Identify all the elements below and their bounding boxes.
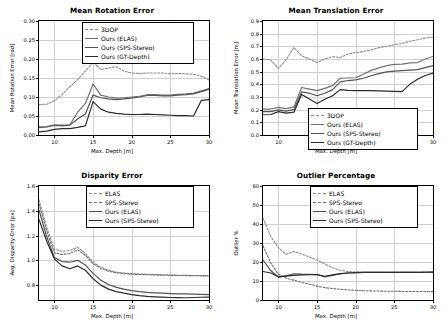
y-axis-tick-label: 0.4 xyxy=(251,81,259,87)
y-axis-tick-label: 0.20 xyxy=(23,56,35,62)
x-axis-tick-label: 30 xyxy=(430,304,437,310)
chart-panel-mean-translation-error: Mean Translation Error0.00.10.20.30.40.5… xyxy=(224,0,448,166)
legend-item[interactable]: Ours (ELAS) xyxy=(85,34,190,43)
x-axis-tick-mark xyxy=(170,136,171,138)
legend-item[interactable]: 3DOP xyxy=(85,25,190,34)
legend-item[interactable]: Ours (SPS-Stereo) xyxy=(311,129,414,138)
legend-label: Ours (GT-Depth) xyxy=(101,52,150,61)
legend-swatch-line-icon xyxy=(311,115,324,116)
legend-item[interactable]: ELAS xyxy=(89,189,190,198)
series-line-ours-elas xyxy=(263,260,433,277)
y-axis-tick-label: 0.25 xyxy=(23,37,35,43)
x-axis-tick-label: 30 xyxy=(430,139,437,145)
chart-panel-mean-rotation-error: Mean Rotation Error0.000.050.100.150.200… xyxy=(0,0,224,166)
x-axis-tick-label: 10 xyxy=(275,139,282,145)
y-axis-tick-mark xyxy=(260,59,262,60)
chart-panel-outlier-percentage: Outlier Percentage0102030405060101520253… xyxy=(224,165,448,331)
y-axis-tick-mark xyxy=(36,40,38,41)
x-axis-tick-mark xyxy=(317,301,318,303)
y-axis-tick-mark xyxy=(260,186,262,187)
legend-item[interactable]: SPS-Stereo xyxy=(89,198,190,207)
legend-swatch-line-icon xyxy=(313,220,326,221)
legend-label: Ours (ELAS) xyxy=(327,120,363,129)
legend-label: SPS-Stereo xyxy=(105,198,138,207)
y-axis-tick-mark xyxy=(260,262,262,263)
y-axis-tick-mark xyxy=(260,110,262,111)
y-axis-tick-mark xyxy=(36,260,38,261)
legend-item[interactable]: Ours (SPS-Stereo) xyxy=(313,216,414,225)
chart-title-outlier-percentage: Outlier Percentage xyxy=(224,171,448,180)
y-axis-tick-label: 0.2 xyxy=(251,107,259,113)
y-axis-tick-mark xyxy=(260,34,262,35)
y-axis-label-mean-rotation-error: Mean Rotation Error [rad] xyxy=(9,44,15,113)
legend-item[interactable]: 3DOP xyxy=(311,111,414,120)
x-axis-tick-label: 25 xyxy=(167,139,174,145)
y-axis-tick-label: 0.5 xyxy=(251,69,259,75)
legend-swatch-line-icon xyxy=(313,193,326,194)
chart-title-disparity-error: Disparity Error xyxy=(0,171,224,180)
series-line-ours-elas xyxy=(263,56,433,109)
series-line-ours-elas xyxy=(39,84,209,127)
chart-panel-disparity-error: Disparity Error0.81.01.21.41.61015202530… xyxy=(0,165,224,331)
y-axis-tick-mark xyxy=(36,236,38,237)
legend-swatch-line-icon xyxy=(85,47,98,48)
y-axis-tick-mark xyxy=(260,21,262,22)
legend-swatch-line-icon xyxy=(89,211,102,212)
legend-item[interactable]: Ours (GT-Depth) xyxy=(311,138,414,147)
legend-item[interactable]: Ours (ELAS) xyxy=(313,207,414,216)
y-axis-tick-label: 0.1 xyxy=(251,119,259,125)
legend-swatch-line-icon xyxy=(89,220,102,221)
legend-swatch-line-icon xyxy=(85,56,98,57)
series-line-ours-gt-depth xyxy=(39,100,209,132)
legend-item[interactable]: Ours (GT-Depth) xyxy=(85,52,190,61)
legend-label: Ours (SPS-Stereo) xyxy=(101,43,155,52)
y-axis-tick-mark xyxy=(260,84,262,85)
x-axis-tick-mark xyxy=(278,301,279,303)
y-axis-tick-label: 0.15 xyxy=(23,75,35,81)
x-axis-tick-mark xyxy=(356,301,357,303)
series-line-ours-sps-stereo xyxy=(39,89,209,127)
legend-label: ELAS xyxy=(105,189,120,198)
x-axis-tick-label: 10 xyxy=(51,139,58,145)
x-axis-label-outlier-percentage: Max. Depth [m] xyxy=(224,313,448,319)
y-axis-tick-label: 0.3 xyxy=(251,94,259,100)
y-axis-tick-label: 0.8 xyxy=(251,31,259,37)
y-axis-tick-label: 50 xyxy=(252,202,259,208)
legend-swatch-line-icon xyxy=(313,211,326,212)
x-axis-tick-label: 25 xyxy=(167,304,174,310)
y-axis-tick-label: 20 xyxy=(252,259,259,265)
legend-item[interactable]: Ours (SPS-Stereo) xyxy=(85,43,190,52)
series-line-3dop xyxy=(263,37,433,68)
y-axis-label-outlier-percentage: Outlier % xyxy=(233,230,239,255)
y-axis-tick-mark xyxy=(36,59,38,60)
legend-item[interactable]: Ours (ELAS) xyxy=(311,120,414,129)
x-axis-tick-label: 10 xyxy=(51,304,58,310)
y-axis-tick-mark xyxy=(36,78,38,79)
legend-label: Ours (SPS-Stereo) xyxy=(329,216,383,225)
x-axis-tick-mark xyxy=(433,136,434,138)
legend-swatch-line-icon xyxy=(311,133,324,134)
y-axis-tick-mark xyxy=(260,122,262,123)
legend-swatch-line-icon xyxy=(313,202,326,203)
y-axis-tick-label: 1.2 xyxy=(27,233,35,239)
chart-title-mean-translation-error: Mean Translation Error xyxy=(224,6,448,15)
y-axis-tick-mark xyxy=(260,300,262,301)
legend-item[interactable]: ELAS xyxy=(313,189,414,198)
legend-item[interactable]: Ours (ELAS) xyxy=(89,207,190,216)
x-axis-tick-label: 25 xyxy=(391,304,398,310)
legend-label: Ours (GT-Depth) xyxy=(327,138,376,147)
legend-swatch-line-icon xyxy=(311,124,324,125)
legend-item[interactable]: SPS-Stereo xyxy=(313,198,414,207)
x-axis-tick-mark xyxy=(132,136,133,138)
x-axis-tick-mark xyxy=(394,301,395,303)
y-axis-tick-mark xyxy=(36,21,38,22)
legend-label: Ours (ELAS) xyxy=(105,207,141,216)
y-axis-tick-mark xyxy=(36,135,38,136)
x-axis-label-disparity-error: Max. Depth [m] xyxy=(0,313,224,319)
legend-item[interactable]: Ours (SPS-Stereo) xyxy=(89,216,190,225)
x-axis-tick-label: 15 xyxy=(314,304,321,310)
y-axis-label-disparity-error: Avg. Disparity-Error [px] xyxy=(9,210,15,275)
y-axis-tick-mark xyxy=(260,281,262,282)
x-axis-tick-label: 15 xyxy=(90,139,97,145)
y-axis-tick-label: 0.8 xyxy=(27,282,35,288)
